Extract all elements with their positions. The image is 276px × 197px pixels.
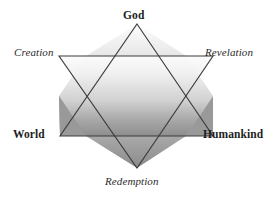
label-world: World: [13, 129, 45, 141]
bottom-point: [86, 136, 186, 168]
label-creation: Creation: [14, 47, 54, 58]
label-redemption: Redemption: [105, 176, 159, 187]
label-humankind: Humankind: [203, 129, 263, 141]
hexagram-diagram: God Creation Revelation World Humankind …: [0, 0, 276, 197]
label-god: God: [123, 10, 144, 22]
star-of-david-graphic: [0, 0, 276, 197]
hexagon-core: [59, 56, 213, 136]
label-revelation: Revelation: [205, 47, 253, 58]
top-point: [86, 24, 186, 56]
